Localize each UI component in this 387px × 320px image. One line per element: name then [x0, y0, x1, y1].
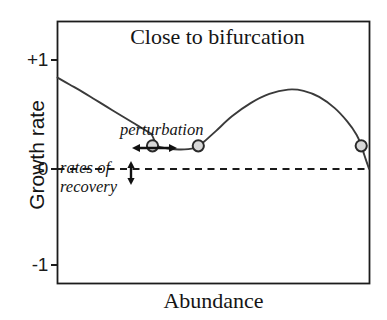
x-axis-label: Abundance: [57, 288, 370, 314]
rates-of-recovery-label-line2: recovery: [60, 177, 117, 197]
ytick-label-minus1: -1: [6, 254, 48, 276]
equilibrium-marker: [193, 140, 204, 151]
y-axis-label: Growth rate: [25, 65, 49, 245]
rates-of-recovery-label-line1: rates of: [60, 158, 110, 178]
equilibrium-marker: [356, 140, 367, 151]
growth-rate-curve: [58, 78, 370, 169]
equilibrium-marker: [147, 140, 158, 151]
perturbation-label: perturbation: [120, 120, 203, 140]
recovery-rate-arrow: [127, 161, 134, 185]
figure-container: +1 0 -1 Growth rate Abundance Close to b…: [0, 0, 387, 320]
plot-frame: [58, 22, 370, 284]
chart-title: Close to bifurcation: [70, 24, 365, 50]
